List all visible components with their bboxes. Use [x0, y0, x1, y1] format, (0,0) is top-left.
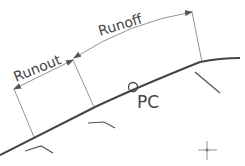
runoff-label: Runoff [96, 10, 144, 39]
pc-label: PC [137, 92, 159, 112]
runout-end-extension [73, 60, 94, 107]
runout-label: Runout [11, 51, 64, 85]
road-hatch-mark-2 [88, 122, 115, 128]
runout-start-extension [14, 89, 34, 137]
superelevation-diagram: Runout Runoff PC [0, 0, 245, 166]
road-hatch-mark-1 [25, 146, 53, 153]
crosshair-icon [198, 141, 217, 160]
runoff-end-extension [192, 12, 202, 62]
diagram-svg: Runout Runoff PC [0, 0, 245, 166]
road-hatch-mark-3 [195, 72, 220, 93]
